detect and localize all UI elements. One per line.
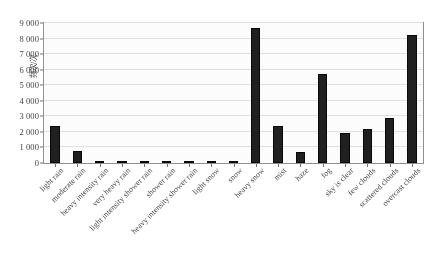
x-tick-mark (345, 164, 346, 167)
bar-chart-figure: 频次/次 01 0002 0003 0004 0005 0006 0007 00… (0, 0, 436, 263)
y-tick-label: 6 000 (19, 65, 39, 74)
x-tick-mark (77, 164, 78, 167)
bar (407, 35, 416, 163)
bar (73, 151, 82, 163)
y-tick-label: 0 (35, 159, 39, 168)
x-tick-mark (211, 164, 212, 167)
bar (296, 152, 305, 163)
bar (340, 133, 349, 163)
y-tick-label: 8 000 (19, 34, 39, 43)
y-tick-label: 9 000 (19, 19, 39, 28)
x-tick-label: haze (294, 166, 311, 183)
y-tick-label: 2 000 (19, 127, 39, 136)
y-tick-label: 1 000 (19, 143, 39, 152)
x-tick-mark (189, 164, 190, 167)
bar-series (44, 23, 423, 163)
x-tick-mark (323, 164, 324, 167)
x-tick-mark (122, 164, 123, 167)
x-axis-tick-labels: light rainmoderate rainheavy intensity r… (44, 164, 423, 244)
bar (229, 161, 238, 163)
y-tick-label: 7 000 (19, 50, 39, 59)
x-tick-mark (367, 164, 368, 167)
bar (363, 129, 372, 163)
bar (95, 161, 104, 163)
y-tick-label: 5 000 (19, 81, 39, 90)
x-tick-mark (100, 164, 101, 167)
bar (273, 126, 282, 163)
bar (162, 161, 171, 163)
x-tick-mark (256, 164, 257, 167)
bar (184, 161, 193, 163)
x-tick-mark (412, 164, 413, 167)
bar (50, 126, 59, 163)
y-tick-label: 4 000 (19, 96, 39, 105)
bar (251, 28, 260, 163)
x-tick-mark (144, 164, 145, 167)
y-tick-label: 3 000 (19, 112, 39, 121)
bar (318, 74, 327, 163)
x-tick-mark (300, 164, 301, 167)
y-axis-tick-labels: 01 0002 0003 0004 0005 0006 0007 0008 00… (0, 16, 41, 170)
x-tick-mark (55, 164, 56, 167)
bar (385, 118, 394, 163)
x-tick-label: mist (272, 166, 288, 182)
bar (140, 161, 149, 163)
x-tick-mark (234, 164, 235, 167)
bar (117, 161, 126, 163)
x-tick-mark (390, 164, 391, 167)
bar (207, 161, 216, 163)
x-tick-mark (167, 164, 168, 167)
x-tick-label: snow (225, 166, 243, 184)
x-tick-label: fog (319, 166, 333, 180)
x-tick-mark (278, 164, 279, 167)
